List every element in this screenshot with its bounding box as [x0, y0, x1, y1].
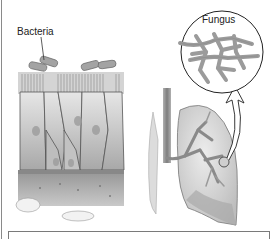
vessel	[16, 198, 40, 212]
caption-box	[8, 231, 270, 239]
basement-membrane	[18, 170, 124, 174]
vessel	[62, 211, 94, 221]
bacteria	[28, 55, 116, 71]
figure: Bacteria Fungus	[0, 0, 271, 239]
lung-panel	[149, 86, 244, 226]
fungus-label: Fungus	[202, 14, 235, 25]
trachea	[163, 88, 171, 163]
bacteria-label: Bacteria	[17, 26, 54, 37]
epithelium-panel	[16, 37, 124, 221]
